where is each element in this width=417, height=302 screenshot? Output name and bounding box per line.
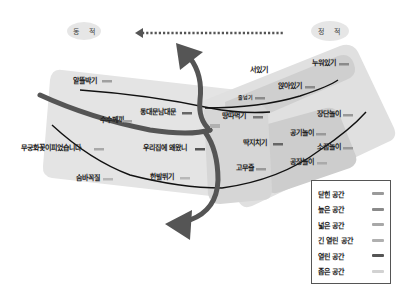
label-mugunghwa: 무궁화꽃이피었습니다 (21, 143, 82, 152)
oval-dynamic-label: 동 적 (73, 27, 99, 36)
legend-label: 넓은 공간 (318, 220, 344, 230)
arrow-left-icon (135, 28, 143, 38)
legend-item: 닫힌 공간 (318, 186, 384, 202)
label-susumgi: 수수께끼 (100, 115, 124, 124)
legend-swatch (372, 239, 384, 242)
legend: 닫힌 공간 높은 공간 넓은 공간 긴 열린 공간 열린 공간 좁은 공간 (311, 180, 391, 284)
legend-label: 긴 열린 공간 (318, 235, 353, 245)
legend-item: 열린 공간 (318, 248, 384, 264)
label-dongdaemun: 동대문남대문 (140, 107, 177, 116)
label-seolgi: 서있기 (250, 65, 268, 74)
label-somgkkup: 소꿉놀이 (317, 142, 341, 151)
label-gonjang: 공장놀이 (290, 157, 314, 166)
legend-label: 닫힌 공간 (318, 189, 344, 199)
legend-swatch (372, 254, 384, 257)
label-gonggi: 공기놀이 (290, 128, 314, 137)
legend-label: 높은 공간 (318, 204, 344, 214)
legend-item: 넓은 공간 (318, 217, 384, 233)
legend-label: 열린 공간 (318, 251, 344, 261)
legend-swatch (372, 223, 384, 226)
oval-dynamic: 동 적 (67, 22, 101, 40)
oval-static-label: 정 적 (318, 27, 344, 36)
label-gomujul: 고무줄 (236, 163, 255, 172)
label-ttakji: 딱지치기 (243, 138, 267, 147)
arrow-down-icon (165, 210, 192, 240)
label-nuwoitgi: 누워있기 (312, 58, 336, 67)
legend-swatch (372, 208, 384, 211)
oval-static: 정 적 (311, 21, 349, 41)
direction-arrow (135, 28, 283, 38)
arrow-up-icon (176, 43, 203, 70)
legend-swatch (372, 270, 384, 273)
marker-center (210, 124, 220, 128)
label-jangdan: 장단놀이 (317, 109, 341, 118)
label-anjaitgi: 앉아있기 (278, 81, 302, 90)
label-uri-jip: 우리집에 왜왔니 (143, 143, 187, 152)
legend-item: 높은 공간 (318, 202, 384, 218)
legend-item: 좁은 공간 (318, 264, 384, 280)
legend-label: 좁은 공간 (318, 266, 344, 276)
label-sumbakkokjil: 숨바꼭질 (76, 173, 100, 182)
label-ttangtta: 땅따먹기 (222, 111, 246, 120)
label-small-line: 줄넘기 (238, 94, 253, 101)
legend-swatch (372, 192, 384, 195)
legend-item: 긴 열린 공간 (318, 233, 384, 249)
label-alttakbakgi: 알뜰박기 (73, 76, 97, 85)
label-hanbal: 한발뛰기 (150, 172, 174, 181)
